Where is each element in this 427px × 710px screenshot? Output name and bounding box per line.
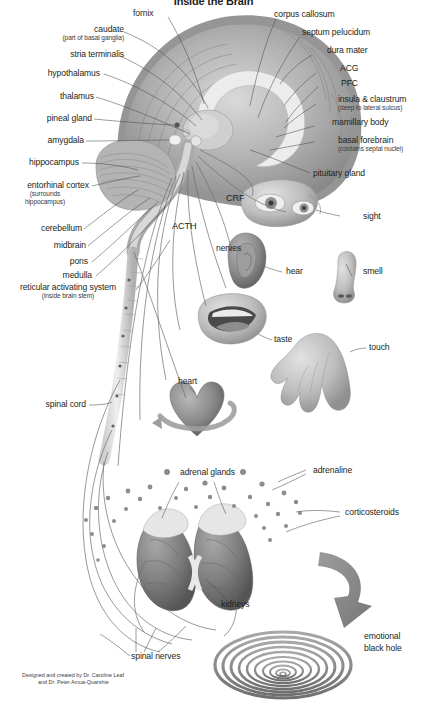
label-kidneys: kidneys: [221, 599, 249, 609]
label-cerebellum: cerebellum: [10, 223, 82, 233]
label-septum-pelucidum: septum pelucidum: [302, 27, 370, 37]
label-touch: touch: [369, 342, 390, 352]
credit-text: Designed and created by Dr. Caroline Lea…: [22, 672, 124, 686]
label-medulla: medulla: [30, 270, 92, 280]
label-heart: heart: [178, 376, 197, 386]
label-hippocampus: hippocampus: [1, 157, 79, 167]
label-crf: CRF: [226, 193, 245, 203]
label-corpus-callosum: corpus callosum: [274, 9, 335, 19]
label-amygdala: amygdala: [6, 135, 84, 145]
label-emotional-black-hole: emotional black hole: [364, 630, 402, 654]
mouth-illustration: [198, 294, 266, 344]
label-insula-claustrum: insula & claustrum (deep to lateral sulc…: [338, 94, 406, 112]
label-taste: taste: [274, 334, 292, 344]
label-nerves: nerves: [216, 243, 241, 253]
label-pituitary-gland: pituitary gland: [313, 168, 365, 178]
label-acg: ACG: [340, 63, 358, 73]
label-basal-forebrain: basal forebrain (contains septal nuclei): [338, 135, 403, 153]
label-sight: sight: [363, 211, 381, 221]
label-hear: hear: [286, 266, 303, 276]
label-fornix: fornix: [133, 8, 153, 18]
label-adrenaline: adrenaline: [313, 465, 352, 475]
label-hypothalamus: hypothalamus: [4, 68, 100, 78]
label-corticosteroids: corticosteroids: [345, 507, 399, 517]
heart-illustration: [152, 382, 234, 436]
flow-arrow: [318, 552, 372, 628]
label-spinal-nerves: spinal nerves: [131, 651, 180, 661]
label-entorhinal-cortex: entorhinal cortex (surrounds hippocampus…: [1, 180, 89, 205]
spiral-illustration: [215, 632, 351, 698]
page-title: Inside the Brain: [0, 0, 427, 7]
label-stria-terminalis: stria terminalis: [14, 49, 124, 59]
nose-illustration: [333, 252, 356, 303]
label-dura-mater: dura mater: [327, 45, 368, 55]
brain-illustration: [96, 15, 361, 460]
label-smell: smell: [363, 266, 383, 276]
label-midbrain: midbrain: [18, 240, 86, 250]
label-acth: ACTH: [172, 221, 197, 231]
eyes-illustration: [241, 180, 320, 227]
hand-illustration: [271, 333, 350, 412]
label-pineal-gland: pineal gland: [2, 113, 92, 123]
leader-lines: [82, 17, 366, 656]
ear-illustration: [228, 233, 266, 288]
hormone-particles: [84, 469, 302, 562]
inside-the-brain-poster: Inside the Brain: [0, 0, 427, 710]
label-adrenal-glands: adrenal glands: [180, 467, 235, 477]
label-thalamus: thalamus: [6, 91, 94, 101]
label-mamillary-body: mamillary body: [332, 117, 388, 127]
label-spinal-cord: spinal cord: [8, 399, 86, 409]
kidneys-illustration: [137, 504, 253, 611]
label-reticular-activating-system: reticular activating system (inside brai…: [2, 282, 134, 300]
label-caudate: caudate (part of basal ganglia): [20, 24, 124, 42]
label-pfc: PFC: [341, 78, 358, 88]
label-pons: pons: [30, 256, 88, 266]
